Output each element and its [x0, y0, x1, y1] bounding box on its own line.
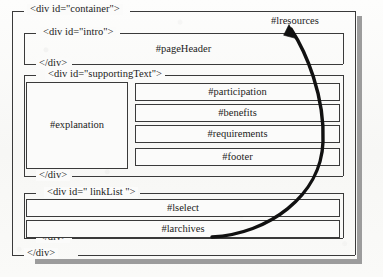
container-shadow-bottom — [35, 259, 362, 264]
container-top-left-stub — [12, 11, 24, 12]
supporting-top-rule — [163, 75, 343, 76]
box-participation: #participation — [135, 83, 340, 101]
linklist-top-left-stub — [24, 193, 36, 194]
container-left-edge — [12, 11, 13, 255]
linklist-bottom-left-stub — [24, 238, 36, 239]
linklist-bottom-rule — [72, 238, 343, 239]
callout-label-lresources: #lresources — [268, 16, 322, 27]
container-shadow-right — [357, 16, 362, 264]
container-bottom-rule — [78, 255, 355, 256]
supporting-right-edge — [343, 75, 344, 176]
intro-right-edge — [343, 33, 344, 64]
linklist-top-rule — [140, 193, 343, 194]
tag-container-open: <div id="container"> — [27, 4, 123, 15]
tag-supporting-open: <div id="supportingText"> — [45, 69, 165, 80]
box-larchives: #larchives — [26, 220, 340, 238]
tag-intro-close: </div> — [36, 58, 70, 69]
container-bottom-left-stub — [12, 255, 24, 256]
linklist-left-edge — [24, 193, 25, 238]
box-footer: #footer — [135, 148, 340, 166]
container-right-edge — [355, 11, 356, 255]
tag-linklist-open: <div id=" linkList "> — [44, 187, 138, 198]
box-requirements: #requirements — [135, 125, 340, 143]
intro-bottom-rule — [72, 64, 343, 65]
diagram-canvas: <div id="container"> </div> <div id="int… — [0, 0, 383, 277]
supporting-left-edge — [24, 75, 25, 176]
supporting-bottom-left-stub — [24, 176, 36, 177]
linklist-right-edge — [343, 193, 344, 238]
box-explanation: #explanation — [26, 82, 128, 169]
intro-top-left-stub — [24, 33, 36, 34]
box-page-header: #pageHeader — [24, 41, 343, 57]
box-benefits: #benefits — [135, 104, 340, 122]
tag-container-close: </div> — [24, 248, 58, 259]
tag-intro-open: <div id="intro"> — [40, 27, 116, 38]
tag-supporting-close: </div> — [36, 170, 70, 181]
intro-top-rule — [120, 33, 343, 34]
box-lselect: #lselect — [26, 199, 340, 217]
container-top-rule — [130, 11, 355, 12]
supporting-top-left-stub — [24, 75, 36, 76]
intro-bottom-left-stub — [24, 64, 36, 65]
supporting-bottom-rule — [72, 176, 343, 177]
